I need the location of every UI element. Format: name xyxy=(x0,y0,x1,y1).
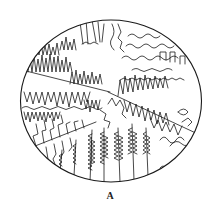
figure-label: A xyxy=(0,190,220,201)
micrograph-drawing xyxy=(0,0,220,214)
dendrite-arms xyxy=(22,20,200,182)
